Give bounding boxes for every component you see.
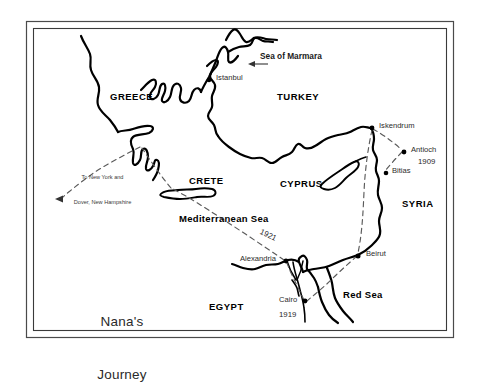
year-label-cairo: 1919 <box>279 311 296 320</box>
to-new-york-note: To New York and Dover, New Hampshire <box>50 157 155 222</box>
iskenderun-bay <box>371 128 379 181</box>
anatolia-west-coast <box>207 60 218 136</box>
beirut-dot <box>356 254 361 259</box>
city-label-alexandria: Alexandria <box>240 255 276 264</box>
country-label-turkey: TURKEY <box>277 92 319 103</box>
city-label-bitias: Bitias <box>392 167 411 176</box>
iskendrum-dot <box>370 126 375 131</box>
crete-island <box>160 188 215 199</box>
thrace-coast <box>201 47 238 92</box>
route-iskendrum-antioch <box>373 129 402 150</box>
marmara-north-shore <box>226 29 254 42</box>
palestine-coast <box>303 255 358 272</box>
to-new-york-note-line1: To New York and <box>50 173 155 181</box>
cyprus-island <box>321 161 359 189</box>
cyprus-karpas-tail <box>354 157 366 162</box>
sinai-coast <box>307 269 318 287</box>
figure-title: Nana's Journey <box>62 278 182 386</box>
country-label-cyprus: CYPRUS <box>280 179 323 190</box>
cairo-dot <box>303 299 308 304</box>
to-new-york-note-line2: Dover, New Hampshire <box>50 198 155 206</box>
red-sea-west-shore <box>318 287 338 323</box>
alexandria-dot <box>284 259 289 264</box>
country-label-greece: GREECE <box>110 92 153 103</box>
figure-title-line1: Nana's <box>62 313 182 331</box>
istanbul-dot <box>207 78 212 83</box>
city-label-antioch: Antioch <box>411 146 436 155</box>
levant-coast <box>358 181 382 255</box>
antioch-dot <box>402 150 407 155</box>
route-iskendrum-beirut <box>358 130 372 253</box>
marmara-arrowhead <box>248 61 255 67</box>
country-label-crete: CRETE <box>189 176 224 187</box>
country-label-syria: SYRIA <box>402 199 434 210</box>
figure-title-line2: Journey <box>62 366 182 384</box>
city-label-beirut: Beirut <box>366 250 386 259</box>
sea-label-mediterranean: Mediterranean Sea <box>179 214 269 225</box>
greece-west-coast <box>81 36 118 132</box>
sea-label-red-sea: Red Sea <box>343 290 383 301</box>
city-label-istanbul: Istanbul <box>216 74 243 83</box>
city-label-iskendrum: Iskendrum <box>379 122 414 131</box>
anatolia-south-coast <box>218 127 371 163</box>
city-label-cairo: Cairo <box>279 296 297 305</box>
year-label-antioch: 1909 <box>418 158 435 167</box>
sea-label-marmara: Sea of Marmara <box>260 52 322 62</box>
bitias-dot <box>384 171 389 176</box>
country-label-egypt: EGYPT <box>209 302 244 313</box>
